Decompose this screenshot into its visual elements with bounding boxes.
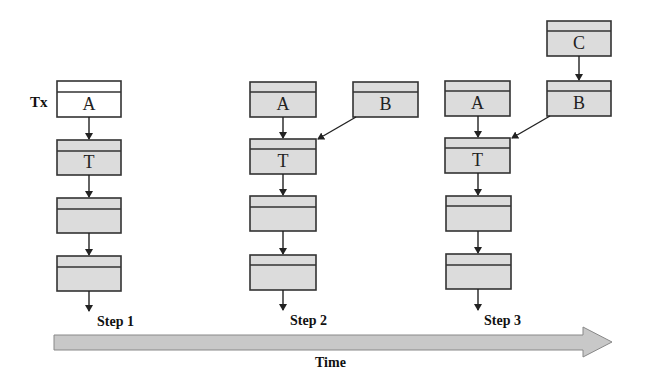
step3-block-4 xyxy=(446,254,511,289)
step1-a-label: A xyxy=(57,94,121,115)
step2-block-4 xyxy=(250,255,316,290)
time-arrow xyxy=(54,327,612,357)
step2-t-label: T xyxy=(250,151,316,172)
step-1-chain xyxy=(57,81,121,311)
step1-block-3 xyxy=(57,198,121,233)
step3-b-label: B xyxy=(547,93,611,114)
step1-t-label: T xyxy=(57,152,121,173)
tx-label: Tx xyxy=(30,94,48,111)
step-3-label: Step 3 xyxy=(484,313,521,329)
step3-block-3 xyxy=(446,196,511,231)
step2-a-label: A xyxy=(250,94,316,115)
step1-block-4 xyxy=(57,256,121,291)
step3-a-label: A xyxy=(445,93,510,114)
step-2-chain xyxy=(250,82,418,310)
dag-timeline-diagram: Tx A T A T B A T B C Step 1 Step 2 Step … xyxy=(0,0,647,388)
step2-arrow-b-t xyxy=(318,117,356,139)
step-1-label: Step 1 xyxy=(97,314,134,330)
step2-b-label: B xyxy=(353,94,418,115)
step3-t-label: T xyxy=(445,150,510,171)
step3-c-label: C xyxy=(547,33,611,54)
step3-arrow-b-t xyxy=(512,116,550,138)
time-axis-label: Time xyxy=(315,355,346,371)
step-2-label: Step 2 xyxy=(290,313,327,329)
step2-block-3 xyxy=(250,196,316,231)
